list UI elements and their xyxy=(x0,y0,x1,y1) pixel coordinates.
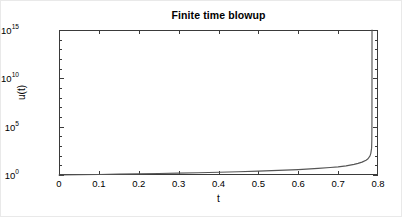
x-tick-label: 0 xyxy=(56,178,61,189)
x-tick-label: 0.5 xyxy=(252,178,265,189)
x-tick-label: 0.3 xyxy=(172,178,185,189)
x-tick-label: 0.2 xyxy=(132,178,145,189)
y-tick-label: 1010 xyxy=(1,73,19,84)
y-tick-label: 1015 xyxy=(1,25,19,36)
chart-title: Finite time blowup xyxy=(59,9,378,21)
y-tick-label: 100 xyxy=(5,170,19,181)
x-tick-label: 0.8 xyxy=(371,178,384,189)
x-tick-label: 0.6 xyxy=(292,178,305,189)
y-tick-major-right xyxy=(373,175,378,176)
plot-area xyxy=(59,30,378,175)
blowup-curve xyxy=(59,30,372,175)
x-axis-label: t xyxy=(59,193,378,204)
figure: Finite time blowup u(t) t 1015 1010 105 … xyxy=(0,0,402,217)
x-tick-label: 0.7 xyxy=(331,178,344,189)
x-tick-label: 0.4 xyxy=(212,178,225,189)
data-curve-svg xyxy=(59,30,378,175)
y-tick-label: 105 xyxy=(5,121,19,132)
x-tick-label: 0.1 xyxy=(92,178,105,189)
